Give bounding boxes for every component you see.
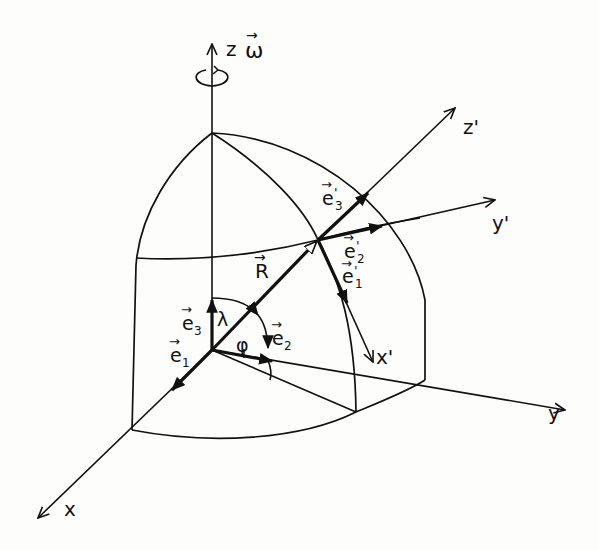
- svg-text:→: →: [254, 249, 266, 265]
- svg-text:→: →: [271, 317, 282, 332]
- e3-label: e 3 →: [181, 302, 202, 338]
- x-axis-label: x: [64, 497, 76, 521]
- meridian-left: [132, 133, 212, 430]
- e1-label: e 1 →: [169, 334, 190, 370]
- z-axis-label: z: [226, 37, 237, 61]
- fixed-axes: [38, 44, 565, 518]
- svg-text:3: 3: [194, 324, 202, 338]
- x-prime-label: x': [376, 345, 393, 369]
- svg-text:→: →: [169, 334, 180, 349]
- svg-text:→: →: [321, 177, 332, 192]
- r-label: R →: [254, 249, 269, 283]
- latitude-circle: [136, 218, 420, 259]
- equator-arc: [132, 380, 425, 438]
- svg-text:1: 1: [182, 356, 190, 370]
- lambda-label: λ: [217, 308, 228, 330]
- svg-text:2: 2: [357, 252, 365, 266]
- svg-text:': ': [354, 263, 358, 278]
- omega-label: ω →: [245, 27, 263, 63]
- svg-text:→: →: [181, 302, 192, 317]
- svg-text:→: →: [343, 230, 354, 245]
- projection-line: [212, 350, 356, 412]
- svg-text:3: 3: [335, 199, 343, 213]
- svg-text:→: →: [246, 27, 258, 43]
- y-prime-label: y': [492, 211, 509, 235]
- y-axis-label: y: [548, 401, 560, 425]
- diagram-canvas: z ω → z' y' x' y x R → e 3 → e 1 → e 2 →…: [0, 0, 599, 550]
- svg-text:': ': [334, 185, 338, 200]
- phi-arc-upper: [258, 315, 268, 348]
- phi-arc: [268, 360, 271, 380]
- svg-text:': ': [356, 238, 360, 253]
- e3-prime-label: e ' 3 →: [321, 177, 343, 213]
- phi-label: φ: [236, 334, 249, 356]
- svg-text:→: →: [341, 256, 352, 271]
- z-prime-label: z': [463, 115, 479, 139]
- svg-text:2: 2: [284, 339, 292, 353]
- e2-label: e 2 →: [271, 317, 292, 353]
- svg-text:1: 1: [355, 277, 363, 291]
